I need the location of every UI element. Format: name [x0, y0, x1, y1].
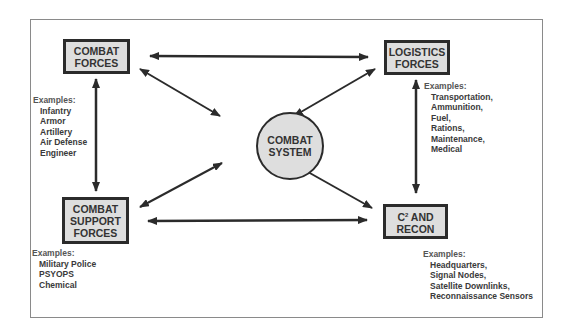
node-logistics-forces: LOGISTICS FORCES	[384, 40, 450, 75]
c2-suffix: AND	[408, 211, 433, 223]
example-item: Maintenance,	[424, 134, 493, 145]
example-item: Ammunition,	[424, 102, 493, 113]
example-item: Military Police	[32, 259, 96, 270]
node-combat-support-forces: COMBAT SUPPORT FORCES	[62, 197, 129, 244]
example-item: Rations,	[424, 123, 493, 134]
examples-combat-support-forces: Examples: Military Police PSYOPS Chemica…	[32, 248, 96, 290]
node-label-line: COMBAT	[74, 45, 119, 57]
center-label-line: SYSTEM	[268, 146, 311, 158]
arrow-combat-logistics	[150, 56, 368, 57]
node-label-line: C2 AND	[397, 209, 433, 223]
node-c2-recon: C2 AND RECON	[383, 204, 448, 239]
arrow-logistics-center	[294, 69, 375, 116]
c2-prefix: C	[397, 211, 405, 223]
example-item: Chemical	[32, 280, 96, 291]
examples-header: Examples:	[33, 95, 87, 106]
example-item: Artillery	[33, 127, 87, 138]
examples-logistics-forces: Examples: Transportation, Ammunition, Fu…	[424, 81, 493, 155]
example-item: Engineer	[33, 148, 87, 159]
example-item: Signal Nodes,	[423, 270, 533, 281]
node-label-line: SUPPORT	[70, 215, 121, 227]
example-item: Fuel,	[424, 113, 493, 124]
example-item: Satellite Downlinks,	[423, 281, 533, 292]
node-label-line: LOGISTICS	[389, 46, 446, 58]
arrow-support-c2	[148, 220, 367, 221]
examples-header: Examples:	[424, 81, 493, 92]
example-item: Headquarters,	[423, 260, 533, 271]
examples-header: Examples:	[32, 248, 96, 259]
examples-combat-forces: Examples: Infantry Armor Artillery Air D…	[33, 95, 87, 158]
examples-c2-recon: Examples: Headquarters, Signal Nodes, Sa…	[423, 249, 533, 302]
node-label-line: FORCES	[75, 57, 119, 69]
node-label-line: RECON	[397, 223, 435, 235]
node-label-line: FORCES	[395, 58, 439, 70]
node-combat-forces: COMBAT FORCES	[63, 39, 130, 74]
arrow-support-center	[140, 163, 222, 207]
example-item: Transportation,	[424, 92, 493, 103]
examples-header: Examples:	[423, 249, 533, 260]
node-combat-system: COMBAT SYSTEM	[256, 112, 324, 180]
example-item: Medical	[424, 144, 493, 155]
example-item: Reconnaissance Sensors	[423, 291, 533, 302]
example-item: Infantry	[33, 106, 87, 117]
center-label-line: COMBAT	[267, 134, 312, 146]
example-item: PSYOPS	[32, 269, 96, 280]
arrow-combat-center	[140, 69, 220, 116]
example-item: Air Defense	[33, 137, 87, 148]
node-label-line: FORCES	[74, 227, 118, 239]
example-item: Armor	[33, 116, 87, 127]
node-label-line: COMBAT	[73, 203, 118, 215]
